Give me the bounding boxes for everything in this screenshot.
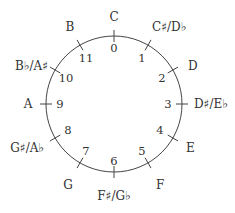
pc-label-6: 6 bbox=[110, 154, 117, 168]
note-label-f-sharp: F♯/G♭ bbox=[97, 189, 130, 203]
pc-label-8: 8 bbox=[64, 123, 71, 137]
tick-mark-5 bbox=[145, 158, 151, 168]
circle bbox=[46, 36, 182, 172]
pc-label-7: 7 bbox=[82, 144, 89, 158]
pitch-class-circle-diagram: 0 1 2 3 4 5 6 7 8 9 10 11 C C♯/D♭ D D♯/E… bbox=[0, 0, 235, 213]
note-label-b-flat: B♭/A♯ bbox=[15, 59, 48, 73]
tick-mark-7 bbox=[77, 158, 83, 168]
tick-mark-4 bbox=[168, 135, 178, 141]
pc-label-10: 10 bbox=[59, 71, 74, 85]
pc-label-0: 0 bbox=[110, 41, 117, 55]
pc-label-1: 1 bbox=[138, 51, 145, 65]
labels: 0 1 2 3 4 5 6 7 8 9 10 11 C C♯/D♭ D D♯/E… bbox=[10, 10, 228, 203]
pc-label-3: 3 bbox=[164, 97, 171, 111]
tick-mark-2 bbox=[168, 67, 178, 73]
tick-mark-1 bbox=[145, 40, 151, 50]
note-label-b: B bbox=[66, 20, 75, 34]
tick-mark-11 bbox=[77, 40, 83, 50]
pc-label-9: 9 bbox=[56, 97, 63, 111]
tick-mark-8 bbox=[50, 135, 60, 141]
note-label-g-sharp: G♯/A♭ bbox=[10, 141, 44, 155]
note-label-c: C bbox=[109, 10, 118, 24]
note-label-a: A bbox=[23, 97, 33, 111]
pc-label-11: 11 bbox=[79, 51, 94, 65]
note-label-d-sharp: D♯/E♭ bbox=[194, 97, 228, 111]
pc-label-2: 2 bbox=[158, 71, 165, 85]
note-label-d: D bbox=[188, 59, 198, 73]
note-label-e: E bbox=[186, 141, 195, 155]
pc-label-4: 4 bbox=[156, 123, 163, 137]
note-label-f: F bbox=[156, 178, 164, 192]
note-label-g: G bbox=[63, 178, 73, 192]
pc-label-5: 5 bbox=[138, 144, 145, 158]
note-label-c-sharp: C♯/D♭ bbox=[152, 20, 186, 34]
